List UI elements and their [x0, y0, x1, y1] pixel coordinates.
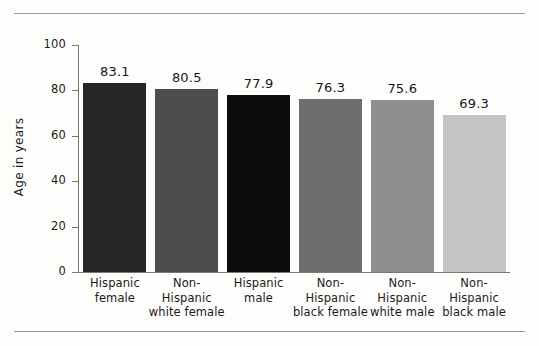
bar-column: 76.3: [299, 45, 362, 272]
x-axis-line: [78, 272, 510, 273]
category-label: Non-Hispanicblack male: [432, 276, 516, 320]
y-tick-mark: [72, 272, 78, 273]
bar-value-label: 83.1: [75, 64, 154, 79]
bar: [155, 89, 218, 272]
bar-column: 69.3: [443, 45, 506, 272]
bar-value-label: 77.9: [219, 76, 298, 91]
category-label-line: black male: [432, 305, 516, 320]
y-tick-label: 60: [22, 128, 66, 142]
bar: [443, 115, 506, 272]
y-tick-mark: [72, 45, 78, 46]
bar-column: 75.6: [371, 45, 434, 272]
category-label-line: Hispanic: [432, 291, 516, 306]
y-tick-mark: [72, 90, 78, 91]
y-axis-title: Age in years: [12, 82, 26, 232]
bar: [227, 95, 290, 272]
bar-value-label: 76.3: [291, 80, 370, 95]
bars-layer: 83.180.577.976.375.669.3: [79, 45, 510, 272]
y-tick-label: 80: [22, 82, 66, 96]
plot-area: Age in years 020406080100 83.180.577.976…: [0, 0, 539, 346]
bar-column: 80.5: [155, 45, 218, 272]
category-label-line: white female: [145, 305, 229, 320]
bar: [83, 83, 146, 272]
y-tick-label: 20: [22, 219, 66, 233]
y-tick-mark: [72, 227, 78, 228]
y-tick-mark: [72, 136, 78, 137]
bar-value-label: 69.3: [435, 96, 514, 111]
y-tick-mark: [72, 181, 78, 182]
bar: [299, 99, 362, 272]
y-tick-label: 100: [22, 37, 66, 51]
chart-figure: Age in years 020406080100 83.180.577.976…: [0, 0, 539, 346]
bar-value-label: 75.6: [363, 81, 442, 96]
y-tick-label: 40: [22, 173, 66, 187]
bar-column: 77.9: [227, 45, 290, 272]
bar: [371, 100, 434, 272]
category-label-line: Non-: [432, 276, 516, 291]
bar-value-label: 80.5: [147, 70, 226, 85]
y-tick-label: 0: [22, 264, 66, 278]
bar-column: 83.1: [83, 45, 146, 272]
